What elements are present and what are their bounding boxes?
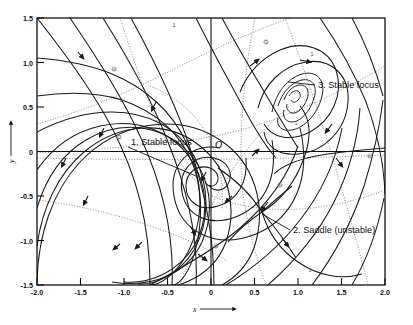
- x-tick-label: -0.5: [161, 288, 173, 297]
- y-tick-label: -1.5: [21, 281, 33, 290]
- annotation-3-label: 3. Stable focus: [318, 80, 379, 90]
- y-tick-label: -1.0: [21, 237, 33, 246]
- y-tick-label: 0: [29, 148, 33, 157]
- contour-label: 1: [310, 51, 313, 57]
- contour-label: 1: [308, 267, 311, 273]
- x-tick-label: 1.5: [337, 288, 347, 297]
- y-tick-label: 1.5: [23, 14, 33, 23]
- x-tick-label: 0: [209, 288, 213, 297]
- x-tick-label: 0.5: [250, 288, 260, 297]
- y-axis-label: y: [7, 159, 16, 164]
- contour-label: ∞: [278, 182, 282, 188]
- annotation-2-label: 2. Saddle (unstable): [293, 225, 375, 235]
- origin-label: O: [215, 139, 222, 150]
- x-axis-label: x: [192, 305, 197, 314]
- contour-label: ∞: [368, 153, 372, 159]
- contour-label: ∞: [214, 243, 218, 249]
- x-tick-label: -1.0: [118, 288, 130, 297]
- contour-label: ∞: [112, 66, 116, 72]
- y-tick-label: -0.5: [21, 192, 33, 201]
- x-tick-label: -1.5: [74, 288, 86, 297]
- contour-label: 1: [294, 120, 297, 126]
- contour-label: 0: [264, 39, 267, 45]
- y-tick-label: 1.0: [23, 59, 33, 68]
- x-tick-label: 2.0: [380, 288, 390, 297]
- phase-portrait-svg: -2.0 -1.5 -1.0 -0.5 0 0.5 1.0 1.5 2.0 1.…: [0, 0, 413, 325]
- contour-label: 0: [117, 134, 120, 140]
- phase-portrait-figure: -2.0 -1.5 -1.0 -0.5 0 0.5 1.0 1.5 2.0 1.…: [0, 0, 413, 325]
- x-tick-labels: -2.0 -1.5 -1.0 -0.5 0 0.5 1.0 1.5 2.0: [31, 288, 390, 297]
- contour-label: 1: [172, 22, 175, 28]
- x-tick-label: 1.0: [293, 288, 303, 297]
- y-tick-label: 0.5: [23, 103, 33, 112]
- contour-label: 1: [119, 97, 122, 103]
- annotation-1-label: 1. Stable focus: [131, 137, 192, 147]
